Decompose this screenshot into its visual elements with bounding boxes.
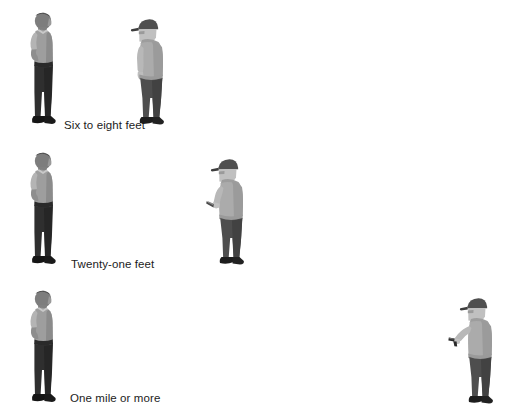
distance-scenarios-diagram: Six to eight feet: [0, 0, 510, 417]
gun-subject-figure: [448, 297, 500, 417]
knife-subject-figure: [206, 158, 252, 279]
caption-six-to-eight-feet: Six to eight feet: [64, 119, 145, 131]
caption-one-mile-or-more: One mile or more: [70, 392, 160, 404]
police-officer-figure: [25, 290, 73, 417]
caption-twenty-one-feet: Twenty-one feet: [71, 258, 154, 270]
scenario-row-twenty-one-feet: Twenty-one feet: [0, 140, 510, 279]
police-officer-figure: [25, 152, 73, 279]
scenario-row-six-to-eight-feet: Six to eight feet: [0, 0, 510, 139]
scenario-row-one-mile-or-more: One mile or more: [0, 278, 510, 417]
